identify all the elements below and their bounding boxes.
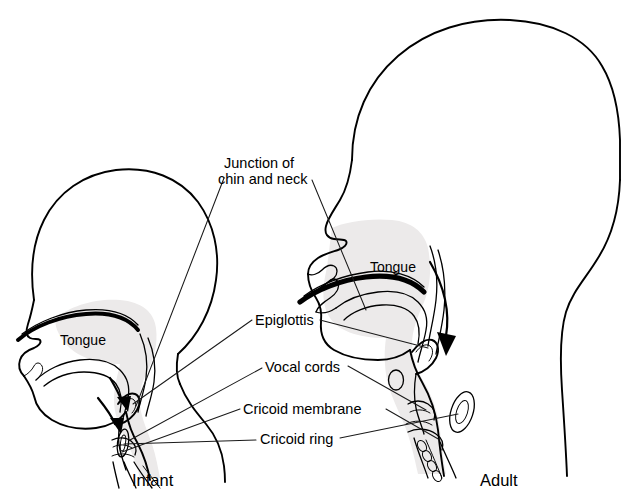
infant-occiput-outline (177, 354, 180, 384)
infant-neck-shoulder-outline (180, 384, 225, 482)
caption-adult: Adult (480, 471, 518, 489)
label-infant-tongue: Tongue (60, 332, 106, 348)
infant-cricoid-ring-inner (119, 435, 126, 452)
infant-trachea-anterior (113, 462, 119, 488)
label-cricoid-ring: Cricoid ring (260, 431, 333, 447)
label-epiglottis: Epiglottis (255, 312, 314, 328)
airway-comparison-diagram: Junction of chin and neck Epiglottis Voc… (0, 0, 625, 502)
adult-cricoid-ring (445, 389, 479, 436)
infant-chin-jaw-outline (24, 376, 126, 429)
adult-posterior-neck-outline (561, 180, 620, 476)
adult-airflow-arrow-head (437, 332, 456, 356)
caption-infant: Infant (132, 471, 174, 489)
label-junction-line2: chin and neck (218, 171, 308, 187)
infant-nasal-detail (24, 363, 43, 380)
infant-figure (18, 169, 225, 488)
anatomy-figure-svg: Junction of chin and neck Epiglottis Voc… (0, 0, 625, 502)
label-junction-line1: Junction of (224, 155, 295, 171)
adult-cranium-outline (352, 20, 620, 180)
adult-airflow-arrow-shaft (430, 262, 447, 336)
label-adult-tongue: Tongue (370, 259, 416, 275)
adult-cricoid-ring-inner (453, 399, 471, 425)
label-cricoid-membrane: Cricoid membrane (243, 401, 361, 417)
label-vocal-cords: Vocal cords (265, 359, 340, 375)
adult-soft-tissue-shading (323, 219, 446, 474)
leader-junction-infant (136, 178, 224, 406)
